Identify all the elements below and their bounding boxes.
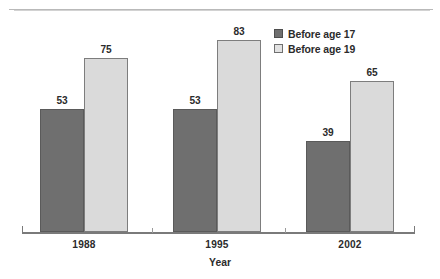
bar-chart-figure: 53 75 53 83 39 65 1988 1995 2002 Year Be… (0, 0, 440, 279)
bar-2002-before-age-17 (306, 141, 350, 232)
legend-item-before-age-17: Before age 17 (274, 27, 359, 40)
x-axis-tick-divider-1 (152, 228, 153, 233)
bar-value-1995-before-age-19: 83 (219, 25, 259, 37)
bar-value-1988-before-age-17: 53 (42, 94, 82, 106)
legend-label-before-age-17: Before age 17 (288, 28, 355, 40)
x-axis-label-1988: 1988 (43, 238, 126, 250)
bar-1995-before-age-19 (217, 40, 261, 232)
x-axis-label-2002: 2002 (309, 238, 392, 250)
legend-swatch-icon-before-age-19 (274, 44, 283, 53)
bar-value-1995-before-age-17: 53 (175, 94, 215, 106)
bar-value-2002-before-age-19: 65 (352, 66, 392, 78)
bar-1995-before-age-17 (173, 109, 217, 232)
bar-value-1988-before-age-19: 75 (86, 43, 126, 55)
legend-swatch-icon-before-age-17 (274, 29, 283, 38)
x-axis-title: Year (13, 256, 427, 268)
chart-legend: Before age 17 Before age 19 (274, 27, 359, 57)
x-axis-tick-start (22, 226, 23, 233)
x-axis-tick-end (414, 226, 415, 233)
bar-1988-before-age-17 (40, 109, 84, 232)
x-axis-tick-divider-2 (285, 228, 286, 233)
x-axis-label-1995: 1995 (176, 238, 259, 250)
legend-item-before-age-19: Before age 19 (274, 42, 359, 55)
bar-2002-before-age-19 (350, 81, 394, 232)
legend-label-before-age-19: Before age 19 (288, 43, 355, 55)
bar-value-2002-before-age-17: 39 (308, 126, 348, 138)
bar-1988-before-age-19 (84, 58, 128, 232)
plot-area: 53 75 53 83 39 65 1988 1995 2002 Year (0, 0, 440, 279)
x-axis-line (22, 232, 415, 234)
